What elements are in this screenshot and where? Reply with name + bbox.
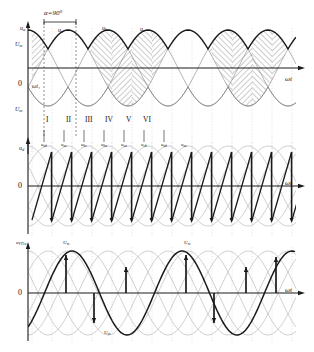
waveform-figure: ua Um Um 0 ωt₁ ωt α=90° ua ub uc I II II… [0, 0, 314, 352]
generated-waveforms [26, 19, 312, 343]
waveform-canvas [0, 0, 314, 352]
